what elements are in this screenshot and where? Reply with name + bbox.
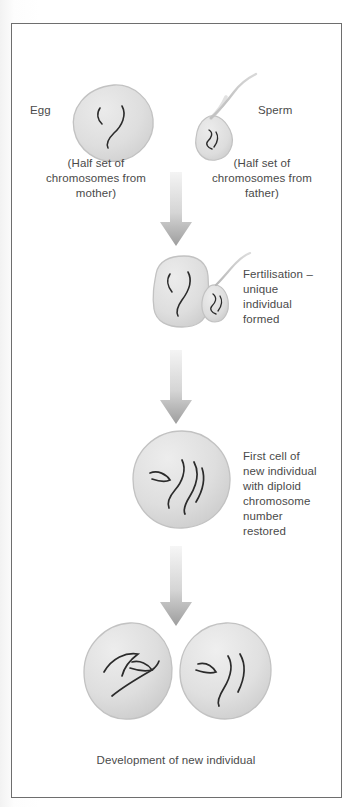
egg-membrane: [73, 85, 153, 161]
fertilisation-text: Fertilisation – unique individual formed: [243, 267, 338, 327]
arrow-down-icon: [159, 172, 193, 248]
daughter-cell-left-membrane: [84, 623, 172, 719]
first-cell: [130, 428, 234, 532]
daughter-cell-right-membrane: [180, 623, 271, 719]
first-cell-text: First cell of new individual with diploi…: [243, 449, 339, 539]
sperm-label: Sperm: [258, 103, 318, 118]
arrow-down-icon: [159, 546, 193, 628]
fertilised-egg-membrane: [153, 256, 208, 327]
sperm-head: [196, 116, 233, 161]
sperm-head: [202, 285, 229, 322]
egg-label: Egg: [30, 103, 86, 118]
development-caption: Development of new individual: [56, 753, 296, 768]
sperm-caption: (Half set of chromosomes from father): [192, 156, 332, 201]
sperm-midpiece: [211, 97, 226, 118]
egg-cell: [70, 82, 156, 164]
fertilisation-cells: [140, 252, 252, 340]
egg-caption: (Half set of chromosomes from mother): [26, 156, 166, 201]
two-cell-stage: [80, 620, 275, 728]
arrow-down-icon: [159, 350, 193, 426]
fertilisation-diagram: Egg Sperm (Half set of chromosomes from …: [0, 0, 352, 807]
sperm-cell: [178, 70, 262, 166]
